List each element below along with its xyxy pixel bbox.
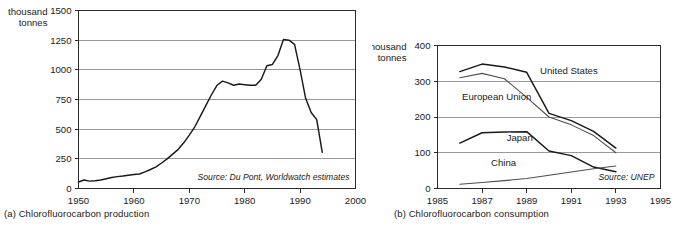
- x-tick-label-1989: 1989: [516, 195, 537, 206]
- y-axis-title-line2: tonnes: [19, 17, 48, 28]
- y-tick-label-200: 200: [414, 111, 430, 122]
- y-tick-label-1250: 1250: [50, 35, 71, 46]
- series-label-china: China: [491, 157, 517, 168]
- figure-b-caption: (b) Chlorofluorocarbon consumption: [394, 208, 549, 219]
- x-tick-label-1990: 1990: [289, 195, 310, 206]
- x-tick-label-1960: 1960: [123, 195, 144, 206]
- x-tick-label-1991: 1991: [561, 195, 582, 206]
- y-tick-label-400: 400: [414, 40, 430, 51]
- chart-b-canvas: 0100200300400198519871989199119931995tho…: [372, 0, 681, 205]
- source-annotation: Source: UNEP: [599, 172, 655, 182]
- series-label-japan: Japan: [507, 132, 533, 143]
- y-tick-label-0: 0: [66, 183, 71, 194]
- y-axis-title-line1: thousand: [8, 6, 47, 17]
- y-tick-label-500: 500: [55, 124, 71, 135]
- x-tick-label-1995: 1995: [650, 195, 671, 206]
- y-axis-title-line1: thousand: [372, 41, 407, 52]
- figure-chlorofluorocarbon-production: 0250500750100012501500195019601970198019…: [0, 0, 372, 232]
- y-tick-label-250: 250: [55, 153, 71, 164]
- figure-a-caption: (a) Chlorofluorocarbon production: [4, 208, 149, 219]
- y-tick-label-1500: 1500: [50, 5, 71, 16]
- y-tick-label-300: 300: [414, 76, 430, 87]
- figure-chlorofluorocarbon-consumption: 0100200300400198519871989199119931995tho…: [372, 0, 681, 232]
- chart-a-canvas: 0250500750100012501500195019601970198019…: [0, 0, 372, 205]
- x-tick-label-1980: 1980: [234, 195, 255, 206]
- series-label-european-union: European Union: [462, 91, 531, 102]
- series-line-cfc-production: [79, 40, 323, 182]
- x-tick-label-1950: 1950: [68, 195, 89, 206]
- x-tick-label-2000: 2000: [345, 195, 366, 206]
- series-line-japan: [460, 132, 616, 172]
- source-annotation: Source: Du Pont, Worldwatch estimates: [198, 172, 351, 182]
- x-tick-label-1970: 1970: [179, 195, 200, 206]
- y-tick-label-100: 100: [414, 147, 430, 158]
- x-tick-label-1985: 1985: [427, 195, 448, 206]
- y-tick-label-750: 750: [55, 94, 71, 105]
- y-tick-label-1000: 1000: [50, 64, 71, 75]
- x-tick-label-1987: 1987: [471, 195, 492, 206]
- x-tick-label-1993: 1993: [605, 195, 626, 206]
- y-axis-title-line2: tonnes: [378, 52, 407, 63]
- y-tick-label-0: 0: [425, 183, 430, 194]
- series-line-china: [460, 166, 616, 184]
- series-label-united-states: United States: [540, 65, 598, 76]
